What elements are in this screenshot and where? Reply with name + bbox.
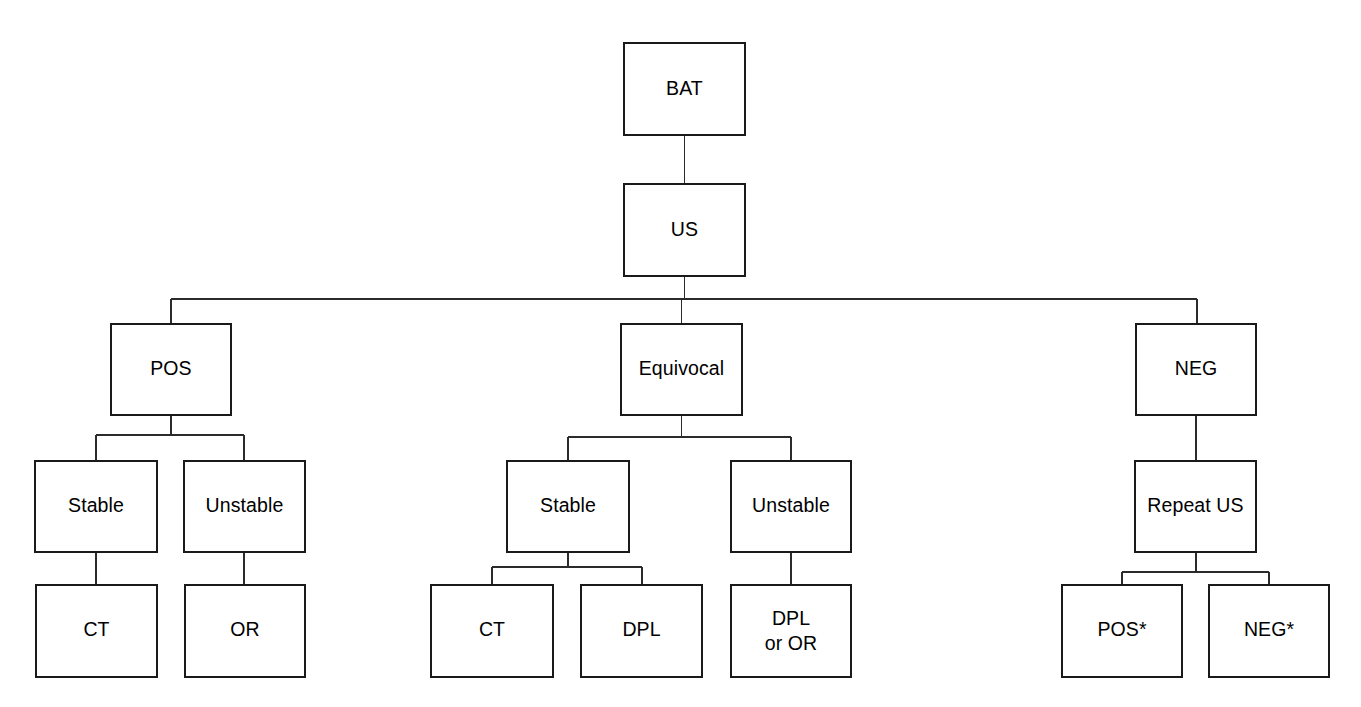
node-pos-unstable-or-label: OR bbox=[230, 618, 259, 640]
node-equivocal-label: Equivocal bbox=[639, 357, 724, 379]
node-us-label: US bbox=[671, 218, 698, 240]
node-equivocal-unstable-dpl-or-or-box[interactable] bbox=[731, 585, 851, 677]
node-equivocal-stable-label: Stable bbox=[540, 494, 596, 516]
node-pos[interactable]: POS bbox=[111, 324, 231, 415]
node-equivocal-stable-dpl[interactable]: DPL bbox=[581, 585, 702, 677]
node-neg[interactable]: NEG bbox=[1136, 324, 1256, 415]
node-neg-repeat-pos-star[interactable]: POS* bbox=[1062, 585, 1182, 677]
node-pos-unstable-or[interactable]: OR bbox=[185, 585, 305, 677]
node-neg-repeat-neg-star-label: NEG* bbox=[1244, 618, 1295, 640]
node-equivocal-stable[interactable]: Stable bbox=[507, 461, 629, 552]
node-bat-label: BAT bbox=[666, 77, 703, 99]
node-neg-repeat-us-label: Repeat US bbox=[1147, 494, 1243, 516]
node-pos-unstable[interactable]: Unstable bbox=[184, 461, 305, 552]
node-us[interactable]: US bbox=[624, 184, 745, 276]
node-equivocal-stable-ct-label: CT bbox=[479, 618, 505, 640]
node-pos-stable[interactable]: Stable bbox=[35, 461, 157, 552]
node-equivocal-unstable-dpl-or-or[interactable]: DPL or OR bbox=[731, 585, 851, 677]
node-equivocal[interactable]: Equivocal bbox=[621, 324, 742, 415]
flowchart-canvas: BAT US POS Equivocal NEG Stable bbox=[0, 0, 1361, 707]
node-equivocal-unstable-dpl-or-or-label-line1: DPL bbox=[772, 607, 810, 629]
node-pos-stable-ct-label: CT bbox=[83, 618, 109, 640]
node-equivocal-unstable-dpl-or-or-label-line2: or OR bbox=[765, 632, 818, 654]
node-neg-repeat-neg-star[interactable]: NEG* bbox=[1209, 585, 1329, 677]
node-pos-stable-ct[interactable]: CT bbox=[36, 585, 157, 677]
node-neg-label: NEG bbox=[1175, 357, 1218, 379]
node-equivocal-stable-dpl-label: DPL bbox=[622, 618, 660, 640]
node-pos-label: POS bbox=[150, 357, 191, 379]
node-pos-stable-label: Stable bbox=[68, 494, 124, 516]
flowchart-root: BAT US POS Equivocal NEG Stable bbox=[0, 0, 1361, 707]
node-equivocal-unstable-label: Unstable bbox=[752, 494, 830, 516]
node-bat[interactable]: BAT bbox=[624, 43, 745, 135]
node-equivocal-unstable[interactable]: Unstable bbox=[731, 461, 851, 552]
node-neg-repeat-pos-star-label: POS* bbox=[1097, 618, 1146, 640]
node-equivocal-stable-ct[interactable]: CT bbox=[431, 585, 553, 677]
node-neg-repeat-us[interactable]: Repeat US bbox=[1135, 461, 1256, 552]
node-pos-unstable-label: Unstable bbox=[206, 494, 284, 516]
